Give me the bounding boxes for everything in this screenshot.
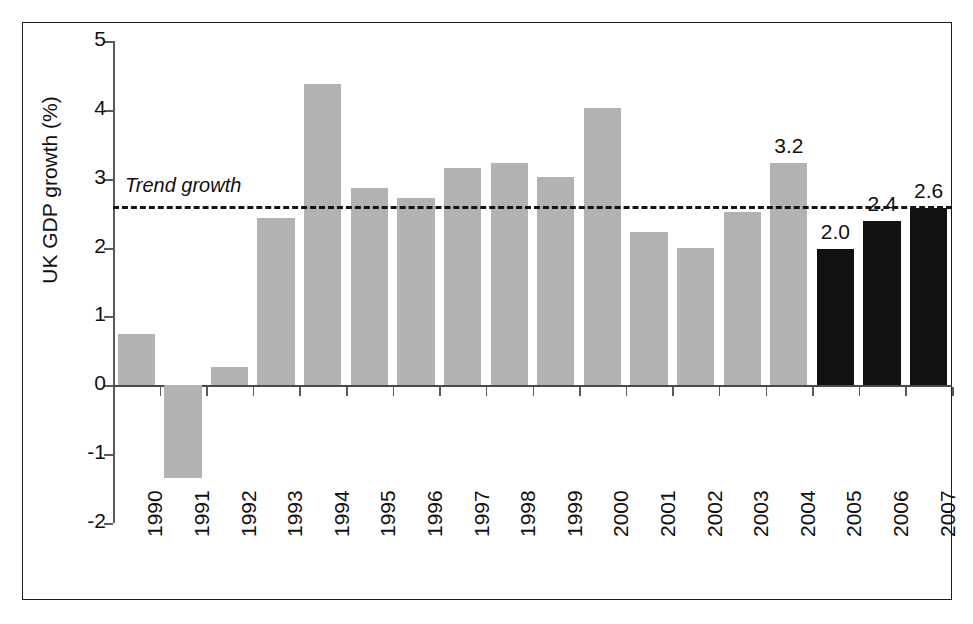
x-label-1993: 1993 — [284, 490, 305, 537]
x-label-1995: 1995 — [377, 490, 398, 537]
x-label-2003: 2003 — [750, 490, 771, 537]
x-tick-mark — [905, 387, 907, 396]
y-tick-label: 5 — [94, 28, 106, 50]
y-tick-label: 2 — [94, 235, 106, 257]
trend-growth-line — [113, 206, 952, 209]
bar-2006 — [863, 221, 900, 385]
x-tick-mark — [299, 387, 301, 396]
bar-1992 — [211, 367, 248, 386]
chart-figure: UK GDP growth (%) 543210-1-2 3.22.02.42.… — [0, 0, 973, 624]
y-tick-label: -2 — [87, 510, 106, 532]
bar-2007 — [910, 208, 947, 386]
x-label-1991: 1991 — [191, 490, 212, 537]
y-tick-label: 1 — [94, 303, 106, 325]
y-tick-label: -1 — [87, 441, 106, 463]
bar-2002 — [677, 248, 714, 386]
x-tick-mark — [766, 387, 768, 396]
bar-value-2005: 2.0 — [805, 220, 866, 244]
x-label-2005: 2005 — [843, 490, 864, 537]
x-label-2001: 2001 — [657, 490, 678, 537]
bar-1991 — [164, 385, 201, 478]
x-label-1990: 1990 — [144, 490, 165, 537]
x-label-1996: 1996 — [424, 490, 445, 537]
y-tick-label: 4 — [94, 97, 106, 119]
x-label-2006: 2006 — [890, 490, 911, 537]
x-label-2007: 2007 — [937, 490, 958, 537]
x-tick-mark — [952, 387, 954, 396]
x-tick-mark — [346, 387, 348, 396]
x-label-2002: 2002 — [704, 490, 725, 537]
x-tick-mark — [393, 387, 395, 396]
y-axis-title: UK GDP growth (%) — [38, 80, 62, 300]
bar-value-2007: 2.6 — [898, 179, 959, 203]
bar-1996 — [397, 198, 434, 385]
y-axis-line — [113, 41, 115, 523]
x-tick-mark — [859, 387, 861, 396]
x-label-1998: 1998 — [517, 490, 538, 537]
x-tick-mark — [579, 387, 581, 396]
x-tick-mark — [812, 387, 814, 396]
x-label-1997: 1997 — [471, 490, 492, 537]
bar-2003 — [724, 212, 761, 386]
x-label-1999: 1999 — [564, 490, 585, 537]
x-tick-mark — [719, 387, 721, 396]
bar-2005 — [817, 249, 854, 385]
x-label-2000: 2000 — [610, 490, 631, 537]
bar-1997 — [444, 168, 481, 386]
x-tick-mark — [439, 387, 441, 396]
x-label-1994: 1994 — [331, 490, 352, 537]
bar-1994 — [304, 84, 341, 386]
y-tick-label: 3 — [94, 166, 106, 188]
y-tick-label: 0 — [94, 372, 106, 394]
x-tick-mark — [672, 387, 674, 396]
bar-2004 — [770, 163, 807, 385]
bar-2000 — [584, 108, 621, 385]
x-tick-mark — [253, 387, 255, 396]
bar-2001 — [630, 232, 667, 385]
x-tick-mark — [160, 387, 162, 396]
bar-1993 — [257, 218, 294, 385]
trend-growth-label: Trend growth — [125, 174, 241, 197]
x-label-1992: 1992 — [238, 490, 259, 537]
bar-1995 — [351, 188, 388, 385]
bar-1998 — [491, 163, 528, 385]
x-tick-mark — [486, 387, 488, 396]
plot-area: 543210-1-2 3.22.02.42.6 Trend growth 199… — [113, 41, 952, 523]
bar-value-2004: 3.2 — [759, 134, 820, 158]
x-tick-mark — [626, 387, 628, 396]
x-tick-mark — [533, 387, 535, 396]
x-tick-mark — [206, 387, 208, 396]
bar-1990 — [118, 334, 155, 385]
x-label-2004: 2004 — [797, 490, 818, 537]
